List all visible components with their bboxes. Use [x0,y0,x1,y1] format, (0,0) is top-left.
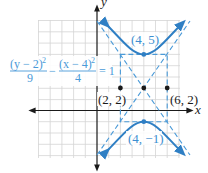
equation-term1-numerator: (y − 2) [10,57,43,71]
vertex-bottom-point [141,119,146,124]
equation-term2-denominator: 4 [75,71,81,85]
vertex-top-label: (4, 5) [131,32,159,47]
equation-term2-numerator: (x − 4) [59,57,92,71]
equation-equals: = 1 [99,64,115,78]
covertex-right-point [165,86,170,91]
y-axis-label: y [99,0,107,9]
covertex-right-label: (6, 2) [170,92,198,107]
vertex-bottom-label: (4, −1) [128,131,164,146]
vertex-top-point [141,52,146,57]
covertex-left-label: (2, 2) [98,92,126,107]
equation-term2-exponent: 2 [91,56,95,65]
hyperbola-graph: x y (4, 5) (4, −1) (2, 2) (6, 2) (y − 2)… [0,0,208,173]
equation-minus: − [49,64,56,78]
equation: (y − 2) 2 9 − (x − 4) 2 4 = 1 [8,56,115,86]
center-point [141,86,146,91]
equation-term1-denominator: 9 [27,71,33,85]
covertex-left-point [118,86,123,91]
equation-term1-exponent: 2 [42,56,46,65]
